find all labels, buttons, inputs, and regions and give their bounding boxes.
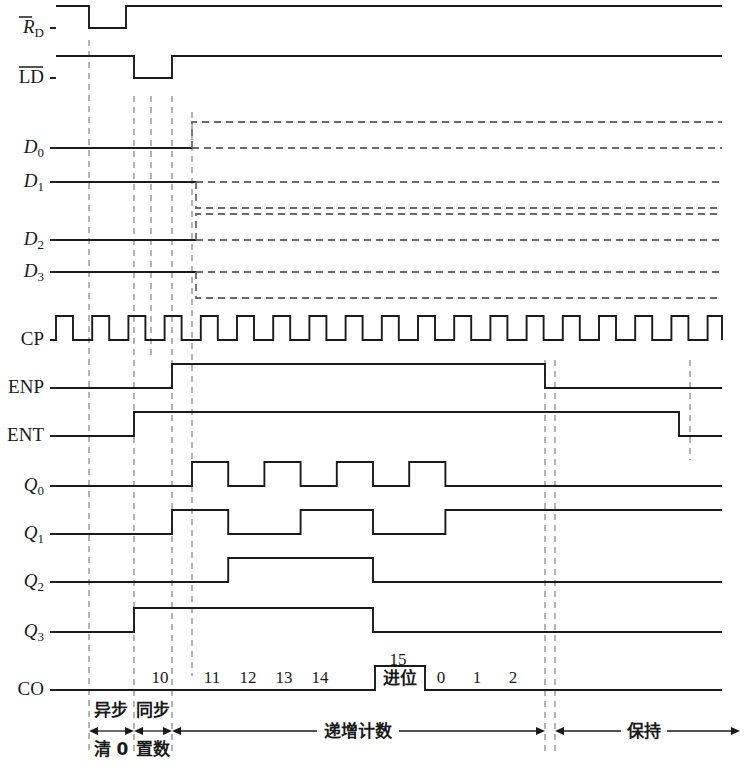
count-value-13: 13 <box>276 668 293 687</box>
signal-label-text: D <box>23 136 38 157</box>
phase-label-top: 同步 <box>136 700 170 720</box>
signal-label-text: Q <box>24 522 38 543</box>
count-value-0: 0 <box>437 668 446 687</box>
signal-label-subscript: 0 <box>38 145 45 160</box>
count-value-15: 15 <box>390 650 407 669</box>
count-value-1: 1 <box>473 668 482 687</box>
svg-text:CO: CO <box>18 678 44 699</box>
timing-diagram-canvas: RDLDD0D1D2D3CPENPENTQ0Q1Q2Q3CO 101112131… <box>0 0 746 776</box>
signal-label-text: ENT <box>7 424 44 445</box>
signal-label-subscript: D <box>35 25 44 40</box>
phase-label-top: 异步 <box>94 700 128 720</box>
count-value-11: 11 <box>204 668 220 687</box>
phase-label-bottom: 清 0 <box>94 739 129 759</box>
count-value-10: 10 <box>152 668 169 687</box>
signal-label-subscript: 1 <box>38 531 45 546</box>
phase-label-inline: 保持 <box>626 721 661 741</box>
signal-label-text: Q <box>24 570 38 591</box>
signal-label-text: D <box>23 170 38 191</box>
signal-label-subscript: 3 <box>38 269 45 284</box>
signal-label-text: R <box>22 16 35 37</box>
signal-label-subscript: 2 <box>38 579 45 594</box>
svg-text:ENT: ENT <box>7 424 44 445</box>
signal-label-text: Q <box>24 474 38 495</box>
count-value-14: 14 <box>312 668 330 687</box>
svg-text:LD: LD <box>19 66 44 87</box>
count-value-2: 2 <box>509 668 518 687</box>
signal-label-text: CO <box>18 678 44 699</box>
svg-text:CP: CP <box>21 328 44 349</box>
svg-text:ENP: ENP <box>8 376 44 397</box>
signal-label-text: D <box>23 228 38 249</box>
count-value-12: 12 <box>240 668 257 687</box>
signal-label-text: D <box>23 260 38 281</box>
timing-diagram-svg: RDLDD0D1D2D3CPENPENTQ0Q1Q2Q3CO 101112131… <box>0 0 746 776</box>
signal-label-subscript: 1 <box>38 179 45 194</box>
signal-label-text: ENP <box>8 376 44 397</box>
signal-label-subscript: 3 <box>38 629 45 644</box>
signal-label-subscript: 2 <box>38 237 45 252</box>
signal-label-subscript: 0 <box>38 483 45 498</box>
phase-label-bottom: 置数 <box>136 739 171 759</box>
carry-box-label: 进位 <box>383 668 417 688</box>
signal-label-text: CP <box>21 328 44 349</box>
signal-label-text: Q <box>24 620 38 641</box>
phase-label-inline: 递增计数 <box>324 721 393 741</box>
signal-label-text: LD <box>19 66 44 87</box>
